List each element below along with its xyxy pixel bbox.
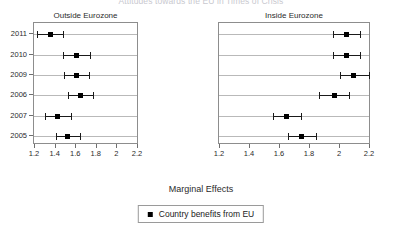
plot-area-inside xyxy=(218,22,370,144)
confidence-interval-cap-upper xyxy=(360,52,361,59)
confidence-interval-cap-lower xyxy=(333,31,334,38)
x-tick-label-1.4: 1.4 xyxy=(49,149,59,158)
panel-title-outside: Outside Eurozone xyxy=(33,11,138,20)
y-tick-label-2006: 2006 xyxy=(10,89,27,98)
x-tick-label-2.2: 2.2 xyxy=(132,149,142,158)
x-tick-mark xyxy=(279,144,280,148)
x-tick-label-1.2: 1.2 xyxy=(214,149,224,158)
marker-square xyxy=(351,73,356,78)
data-point-inside-eurozone-2006 xyxy=(219,95,369,96)
y-tick-label-2011: 2011 xyxy=(11,28,27,37)
marker-square xyxy=(299,134,304,139)
confidence-interval-cap-lower xyxy=(63,52,64,59)
data-point-outside-eurozone-2010 xyxy=(34,55,137,56)
data-point-outside-eurozone-2006 xyxy=(34,95,137,96)
confidence-interval-cap-lower xyxy=(37,31,38,38)
marker-square xyxy=(74,73,79,78)
confidence-interval-cap-upper xyxy=(316,133,317,140)
data-point-outside-eurozone-2005 xyxy=(34,136,137,137)
marker-square xyxy=(332,93,337,98)
confidence-interval-cap-lower xyxy=(45,113,46,120)
panel-title-inside: Inside Eurozone xyxy=(218,11,370,20)
x-tick-mark xyxy=(75,144,76,148)
x-tick-mark xyxy=(96,144,97,148)
chart-title: Attitudes towards the EU in Times of Cri… xyxy=(0,0,402,6)
x-axis-outside: 1.21.41.61.822.2 xyxy=(33,144,138,166)
marker-square xyxy=(55,114,60,119)
confidence-interval-cap-lower xyxy=(340,72,341,79)
panel-outside-eurozone: Outside Eurozone 1.21.41.61.822.2 xyxy=(33,22,138,169)
x-tick-label-2: 2 xyxy=(337,149,341,158)
chart-legend: Country benefits from EU xyxy=(138,205,264,223)
data-point-inside-eurozone-2009 xyxy=(219,75,369,76)
plot-area-outside xyxy=(33,22,138,144)
confidence-interval-cap-upper xyxy=(90,52,91,59)
confidence-interval-cap-upper xyxy=(80,133,81,140)
confidence-interval-cap-lower xyxy=(64,72,65,79)
y-tick-label-2005: 2005 xyxy=(10,130,27,139)
marker-square xyxy=(48,32,53,37)
confidence-interval-cap-upper xyxy=(89,72,90,79)
y-tick-label-2007: 2007 xyxy=(10,110,27,119)
data-point-outside-eurozone-2009 xyxy=(34,75,137,76)
chart-figure: Attitudes towards the EU in Times of Cri… xyxy=(0,0,402,242)
confidence-interval-cap-lower xyxy=(319,92,320,99)
y-axis: 201120102009200620072005 xyxy=(0,22,33,144)
x-tick-label-2: 2 xyxy=(114,149,118,158)
marker-square xyxy=(74,53,79,58)
legend-marker-icon xyxy=(148,212,153,217)
x-tick-label-2.2: 2.2 xyxy=(364,149,374,158)
x-tick-mark xyxy=(34,144,35,148)
x-tick-label-1.8: 1.8 xyxy=(304,149,314,158)
confidence-interval-cap-lower xyxy=(56,133,57,140)
x-tick-mark xyxy=(249,144,250,148)
x-tick-label-1.6: 1.6 xyxy=(70,149,80,158)
legend-label: Country benefits from EU xyxy=(159,209,254,219)
x-tick-mark xyxy=(369,144,370,148)
x-axis-label: Marginal Effects xyxy=(0,184,402,194)
confidence-interval-cap-lower xyxy=(273,113,274,120)
y-tick-label-2009: 2009 xyxy=(10,69,27,78)
x-tick-mark xyxy=(116,144,117,148)
confidence-interval-cap-lower xyxy=(68,92,69,99)
marker-square xyxy=(65,134,70,139)
confidence-interval-cap-lower xyxy=(333,52,334,59)
x-tick-label-1.4: 1.4 xyxy=(244,149,254,158)
confidence-interval-cap-upper xyxy=(71,113,72,120)
marker-square xyxy=(344,32,349,37)
confidence-interval-cap-upper xyxy=(349,92,350,99)
x-axis-inside: 1.21.41.61.822.2 xyxy=(218,144,370,166)
marker-square xyxy=(344,53,349,58)
marker-square xyxy=(78,93,83,98)
marker-square xyxy=(284,114,289,119)
x-tick-label-1.2: 1.2 xyxy=(29,149,39,158)
data-point-outside-eurozone-2007 xyxy=(34,116,137,117)
data-point-inside-eurozone-2005 xyxy=(219,136,369,137)
x-tick-mark xyxy=(219,144,220,148)
data-point-inside-eurozone-2010 xyxy=(219,55,369,56)
confidence-interval-cap-lower xyxy=(288,133,289,140)
x-tick-mark xyxy=(55,144,56,148)
confidence-interval-cap-upper xyxy=(301,113,302,120)
data-point-inside-eurozone-2007 xyxy=(219,116,369,117)
confidence-interval-cap-upper xyxy=(369,72,370,79)
x-tick-label-1.6: 1.6 xyxy=(274,149,284,158)
y-tick-label-2010: 2010 xyxy=(10,49,27,58)
data-point-inside-eurozone-2011 xyxy=(219,34,369,35)
confidence-interval-cap-upper xyxy=(93,92,94,99)
x-tick-mark xyxy=(137,144,138,148)
confidence-interval-cap-upper xyxy=(63,31,64,38)
data-point-outside-eurozone-2011 xyxy=(34,34,137,35)
panel-inside-eurozone: Inside Eurozone 1.21.41.61.822.2 xyxy=(218,22,370,169)
x-tick-mark xyxy=(339,144,340,148)
x-tick-label-1.8: 1.8 xyxy=(91,149,101,158)
x-tick-mark xyxy=(309,144,310,148)
confidence-interval-cap-upper xyxy=(360,31,361,38)
